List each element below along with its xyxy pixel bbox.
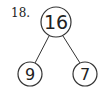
number-bond-diagram: 16 9 7: [0, 0, 101, 95]
part-value-left: 9: [25, 65, 35, 84]
connector-left: [35, 36, 49, 63]
whole-value: 16: [44, 11, 68, 33]
connector-right: [63, 36, 80, 63]
part-value-right: 7: [80, 65, 90, 84]
